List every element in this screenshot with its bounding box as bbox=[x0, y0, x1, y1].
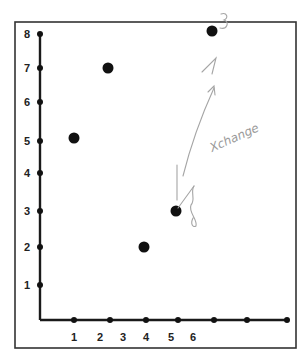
x-tick-label: 4 bbox=[143, 331, 150, 343]
data-points bbox=[69, 26, 218, 253]
handwritten-stroke bbox=[202, 58, 216, 74]
y-tick-label: 7 bbox=[24, 62, 30, 74]
scatter-chart: 8 7 6 5 4 3 2 1 1 2 3 4 5 6 bbox=[0, 0, 308, 363]
y-tick-label: 1 bbox=[24, 279, 30, 291]
x-tick-label: 5 bbox=[168, 331, 174, 343]
x-tick-label: 6 bbox=[190, 331, 196, 343]
data-point bbox=[171, 206, 182, 217]
x-tick-label: 2 bbox=[97, 331, 103, 343]
y-tick-label: 4 bbox=[24, 167, 31, 179]
y-tick-label: 3 bbox=[24, 205, 30, 217]
y-axis-labels: 8 7 6 5 4 3 2 1 bbox=[24, 28, 31, 291]
x-axis-labels: 1 2 3 4 5 6 bbox=[71, 331, 196, 343]
y-tick-label: 8 bbox=[24, 28, 30, 40]
y-tick-label: 5 bbox=[24, 135, 30, 147]
arrow-line bbox=[183, 88, 214, 176]
data-point bbox=[139, 242, 150, 253]
chart-frame bbox=[15, 22, 296, 348]
data-point bbox=[69, 133, 80, 144]
handwritten-3 bbox=[220, 14, 227, 29]
handwritten-8 bbox=[190, 186, 196, 227]
y-tick-label: 2 bbox=[24, 241, 30, 253]
x-tick-label: 3 bbox=[120, 331, 126, 343]
data-point bbox=[103, 63, 114, 74]
handwritten-annotations bbox=[177, 14, 227, 227]
handwritten-label: Xchange bbox=[207, 121, 261, 156]
data-point bbox=[207, 26, 218, 37]
x-tick-label: 1 bbox=[71, 331, 77, 343]
y-tick-label: 6 bbox=[24, 96, 30, 108]
